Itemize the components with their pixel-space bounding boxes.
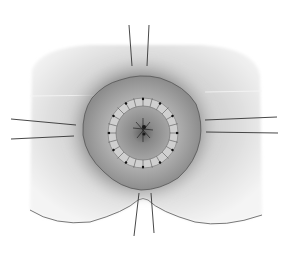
suture-knot xyxy=(159,161,161,163)
suture-knot xyxy=(112,115,114,117)
suture-knot xyxy=(112,149,114,151)
suture-knot xyxy=(176,132,178,134)
illustration-canvas xyxy=(0,0,286,257)
suture-knot xyxy=(125,102,127,104)
suture-knot xyxy=(142,98,144,100)
suture-knot xyxy=(171,149,173,151)
suture-knot xyxy=(171,115,173,117)
surgical-illustration xyxy=(0,0,286,257)
suture-knot xyxy=(108,132,110,134)
suture-knot xyxy=(125,161,127,163)
suture-knot xyxy=(142,166,144,168)
suture-knot xyxy=(159,102,161,104)
